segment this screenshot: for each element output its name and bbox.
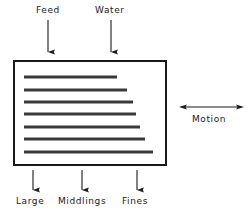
water-label: Water	[95, 5, 125, 16]
inlet-arrows	[48, 20, 111, 52]
figure-canvas: Feed Water Large Middlings Fines Motion	[0, 0, 252, 222]
riffle-group	[24, 77, 153, 152]
motion-label: Motion	[192, 114, 226, 125]
diagram-vector-layer	[0, 0, 252, 222]
motion-arrow	[179, 104, 244, 109]
outlet-arrows	[33, 170, 137, 190]
fines-label: Fines	[122, 196, 148, 207]
middlings-label: Middlings	[58, 196, 106, 207]
large-label: Large	[16, 196, 44, 207]
feed-label: Feed	[36, 5, 60, 16]
